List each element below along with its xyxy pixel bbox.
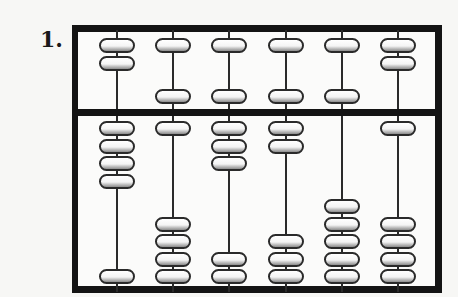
- bead-rod2-lower-bottom3: [155, 234, 191, 249]
- bead-rod2-upper-bottom1: [155, 89, 191, 104]
- bead-rod6-lower-bottom2: [380, 252, 416, 267]
- bead-rod6-lower-bottom3: [380, 234, 416, 249]
- bead-rod5-upper-top1: [324, 38, 360, 53]
- bead-rod2-upper-top1: [155, 38, 191, 53]
- bead-rod5-lower-bottom4: [324, 217, 360, 232]
- bead-rod4-lower-bottom2: [268, 252, 304, 267]
- bead-rod1-lower-top4: [99, 174, 135, 189]
- bead-rod6-upper-top1: [380, 38, 416, 53]
- bead-rod4-upper-top1: [268, 38, 304, 53]
- bead-rod4-lower-top2: [268, 139, 304, 154]
- bead-rod2-lower-top1: [155, 121, 191, 136]
- bead-rod1-lower-top3: [99, 156, 135, 171]
- bead-rod5-lower-bottom2: [324, 252, 360, 267]
- bead-rod4-lower-bottom3: [268, 234, 304, 249]
- bead-rod1-lower-top1: [99, 121, 135, 136]
- bead-rod2-lower-bottom4: [155, 217, 191, 232]
- bead-rod3-upper-bottom1: [211, 89, 247, 104]
- bead-rod5-lower-bottom5: [324, 199, 360, 214]
- bead-rod3-lower-bottom2: [211, 252, 247, 267]
- bead-rod6-lower-top1: [380, 121, 416, 136]
- problem-number: 1.: [40, 26, 63, 52]
- bead-rod1-upper-top1: [99, 38, 135, 53]
- bead-rod1-lower-top2: [99, 139, 135, 154]
- bead-rod5-lower-bottom1: [324, 269, 360, 284]
- bead-rod4-lower-bottom1: [268, 269, 304, 284]
- bead-rod5-upper-bottom1: [324, 89, 360, 104]
- bead-rod6-upper-top2: [380, 56, 416, 71]
- bead-rod3-lower-top1: [211, 121, 247, 136]
- abacus-divider-beam: [72, 109, 442, 116]
- bead-rod2-lower-bottom1: [155, 269, 191, 284]
- bead-rod2-lower-bottom2: [155, 252, 191, 267]
- bead-rod3-upper-top1: [211, 38, 247, 53]
- bead-rod6-lower-bottom4: [380, 217, 416, 232]
- bead-rod5-lower-bottom3: [324, 234, 360, 249]
- bead-rod4-upper-bottom1: [268, 89, 304, 104]
- bead-rod3-lower-bottom1: [211, 269, 247, 284]
- bead-rod4-lower-top1: [268, 121, 304, 136]
- bead-rod3-lower-top2: [211, 139, 247, 154]
- bead-rod1-lower-bottom1: [99, 269, 135, 284]
- bead-rod1-upper-top2: [99, 56, 135, 71]
- bead-rod3-lower-top3: [211, 156, 247, 171]
- bead-rod6-lower-bottom1: [380, 269, 416, 284]
